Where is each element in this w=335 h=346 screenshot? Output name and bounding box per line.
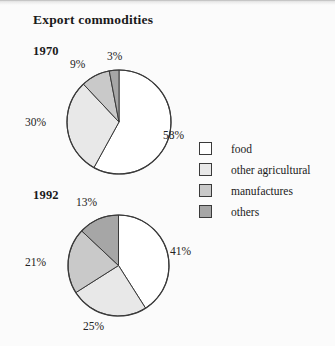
legend-swatch-food <box>199 142 212 155</box>
slice-label-1970-food: 58% <box>163 129 184 141</box>
pie-chart-1970 <box>66 69 172 175</box>
pie-chart-1992-svg <box>67 214 170 317</box>
slice-label-1992-other-agricultural: 25% <box>83 320 104 332</box>
slice-label-1992-others: 13% <box>76 196 97 208</box>
chart-title-1992: 1992 <box>33 188 59 203</box>
export-commodities-figure: Export commodities 1970 58% 30% 9% 3% 19… <box>0 0 335 346</box>
scan-artifact-edge <box>0 0 335 1</box>
legend-label-others: others <box>231 206 259 218</box>
slice-label-1992-manufactures: 21% <box>25 256 46 268</box>
legend-item-food: food <box>199 139 311 158</box>
legend-item-other-agricultural: other agricultural <box>199 160 311 179</box>
legend: food other agricultural manufactures oth… <box>199 139 311 223</box>
legend-swatch-others <box>199 205 212 218</box>
legend-swatch-other-agricultural <box>199 163 212 176</box>
slice-label-1970-manufactures: 9% <box>70 58 85 70</box>
slice-label-1970-other-agricultural: 30% <box>25 116 46 128</box>
pie-chart-1992 <box>67 214 170 317</box>
legend-label-food: food <box>231 143 252 155</box>
page-title: Export commodities <box>33 12 153 28</box>
legend-label-manufactures: manufactures <box>231 185 293 197</box>
slice-label-1992-food: 41% <box>170 245 191 257</box>
legend-label-other-agricultural: other agricultural <box>231 164 311 176</box>
slice-label-1970-others: 3% <box>107 50 122 62</box>
pie-chart-1970-svg <box>66 69 172 175</box>
legend-swatch-manufactures <box>199 184 212 197</box>
legend-item-others: others <box>199 202 311 221</box>
legend-item-manufactures: manufactures <box>199 181 311 200</box>
chart-title-1970: 1970 <box>33 44 59 59</box>
